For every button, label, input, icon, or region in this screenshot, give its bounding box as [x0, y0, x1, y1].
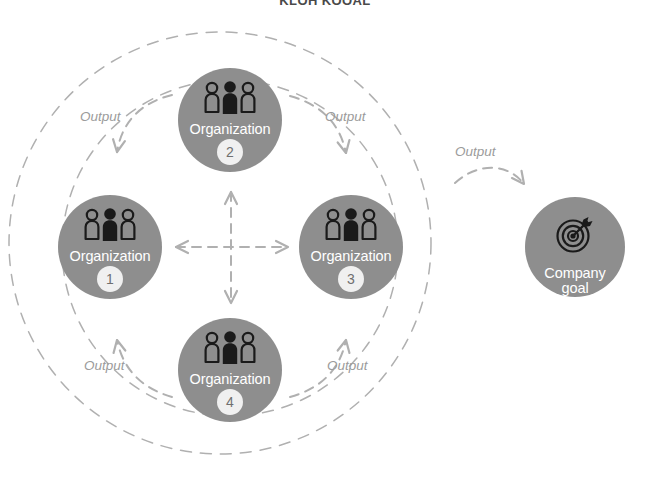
node-label: Organization [189, 372, 270, 387]
node-organization-2[interactable]: Organization 2 [178, 68, 282, 172]
node-badge: 2 [217, 139, 243, 165]
node-label-line2: goal [561, 280, 588, 296]
node-label: Organization [189, 122, 270, 137]
people-group-icon [202, 81, 258, 119]
node-label: Organization [310, 249, 391, 264]
node-label-line1: Company [544, 265, 605, 281]
node-badge: 1 [97, 266, 123, 292]
node-badge: 3 [338, 266, 364, 292]
output-arrow-to-company-goal [455, 168, 524, 184]
node-organization-1[interactable]: Organization 1 [58, 195, 162, 299]
people-group-icon [323, 208, 379, 246]
people-group-icon [82, 208, 138, 246]
node-label: Organization [69, 249, 150, 264]
node-organization-3[interactable]: Organization 3 [299, 195, 403, 299]
output-arrow-org4-to-org1 [117, 340, 172, 397]
people-group-icon [202, 331, 258, 369]
node-badge: 4 [217, 389, 243, 415]
node-label: Company goal [532, 266, 618, 296]
target-dartboard-icon [554, 215, 596, 259]
output-arrow-org4-to-org3 [290, 340, 346, 397]
node-company-goal[interactable]: Company goal [525, 197, 625, 297]
node-organization-4[interactable]: Organization 4 [178, 318, 282, 422]
